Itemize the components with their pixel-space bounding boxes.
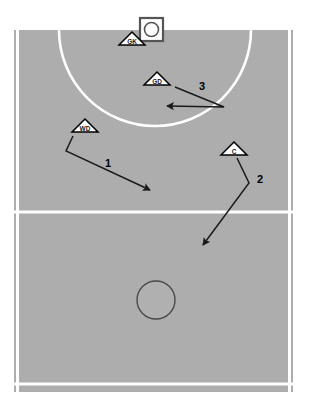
player-marker-c-label: C [232, 148, 237, 155]
netball-court-diagram: 1 2 3 GK GD WD C [0, 0, 309, 407]
movement-number-1: 1 [105, 157, 111, 169]
player-marker-gd-label: GD [152, 78, 162, 85]
centre-circle [137, 281, 175, 319]
goal-post [140, 18, 163, 41]
player-marker-gk-label: GK [127, 38, 137, 45]
goal-ring-icon [145, 23, 159, 37]
court-canvas: 1 2 3 GK GD WD C [0, 0, 309, 407]
movement-number-2: 2 [257, 173, 263, 185]
player-marker-wd-label: WD [80, 125, 91, 132]
movement-number-3: 3 [199, 80, 205, 92]
